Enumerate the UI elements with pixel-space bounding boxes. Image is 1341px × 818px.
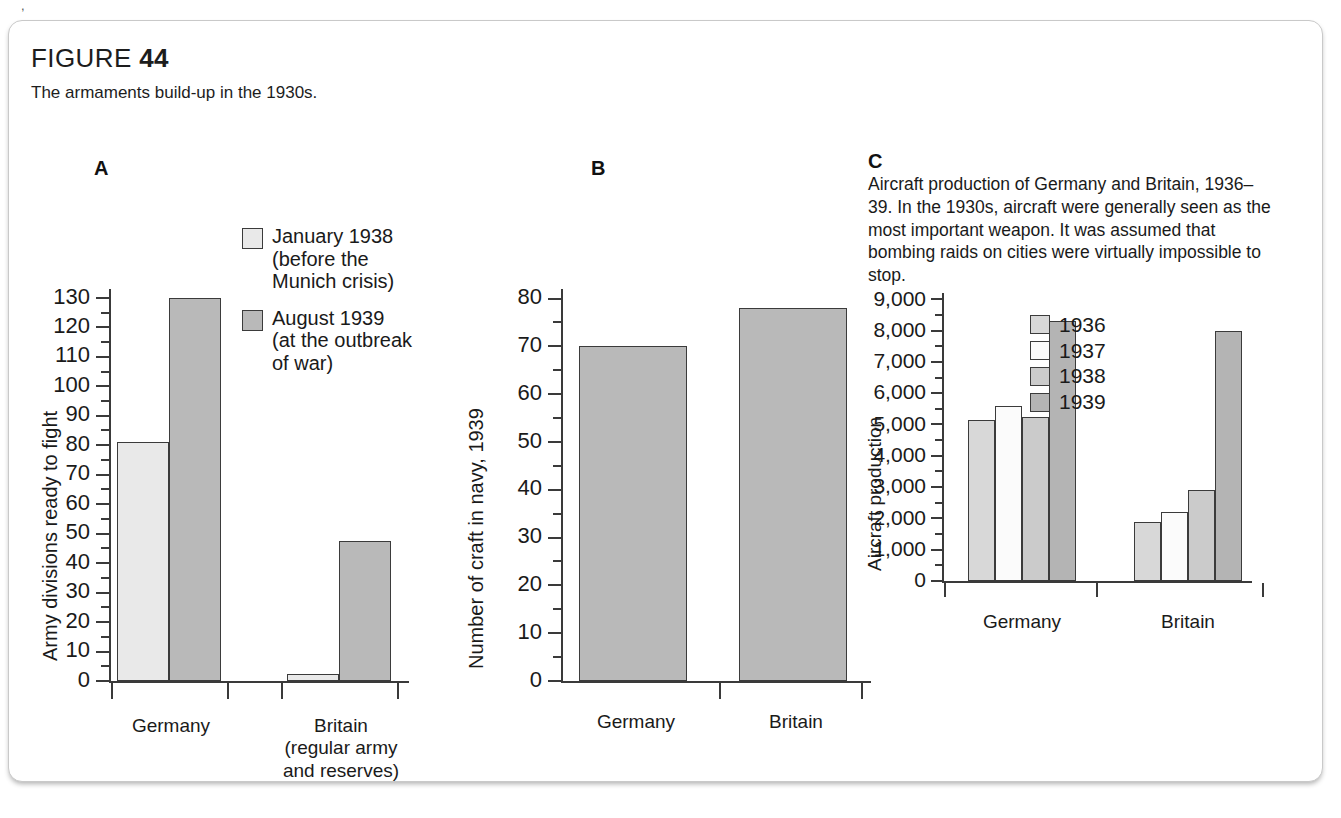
y-tick-major	[931, 392, 942, 394]
legend-item: 1939	[1030, 390, 1106, 414]
chart-c-y-axis-title: Aircraft production	[864, 417, 886, 571]
y-tick-minor	[101, 518, 109, 520]
legend-label: 1939	[1059, 390, 1106, 414]
y-tick-major	[931, 580, 942, 582]
figure-page: , FIGURE 44 The armaments build-up in th…	[0, 0, 1341, 818]
legend-item: January 1938(before theMunich crisis)	[242, 225, 412, 293]
category-label: Britain	[1098, 611, 1278, 633]
y-tick-major	[931, 330, 942, 332]
category-tick	[227, 683, 229, 699]
y-tick-minor	[935, 408, 942, 410]
y-tick-minor	[553, 608, 561, 610]
y-tick-major	[931, 517, 942, 519]
figure-label: FIGURE	[31, 43, 132, 73]
category-tick	[397, 683, 399, 699]
y-tick-label: 0	[0, 669, 90, 691]
y-tick-label: 6,000	[836, 381, 926, 402]
legend-item: August 1939(at the outbreakof war)	[242, 307, 412, 375]
y-tick-minor	[101, 341, 109, 343]
page-title: FIGURE 44	[31, 43, 317, 74]
y-tick-major	[96, 356, 109, 358]
bar-c-1-3	[1215, 331, 1242, 581]
legend-label: 1937	[1059, 339, 1106, 363]
y-tick-label: 130	[0, 286, 90, 308]
bar-c-1-0	[1134, 522, 1161, 581]
bar-c-0-1	[995, 406, 1022, 581]
y-tick-label: 0	[836, 569, 926, 590]
figure-card: FIGURE 44 The armaments build-up in the …	[8, 20, 1323, 782]
y-tick-major	[548, 489, 561, 491]
y-tick-major	[548, 537, 561, 539]
y-tick-major	[96, 533, 109, 535]
figure-header: FIGURE 44 The armaments build-up in the …	[31, 43, 317, 103]
y-tick-minor	[101, 312, 109, 314]
bar-a-1-1	[339, 541, 391, 681]
y-tick-major	[96, 651, 109, 653]
y-tick-minor	[553, 656, 561, 658]
y-tick-major	[96, 326, 109, 328]
y-tick-minor	[101, 459, 109, 461]
bar-a-0-1	[169, 298, 221, 681]
y-tick-label: 0	[452, 669, 542, 691]
y-tick-major	[96, 503, 109, 505]
y-tick-minor	[101, 488, 109, 490]
y-tick-label: 60	[452, 382, 542, 404]
chart-b-y-axis	[561, 289, 563, 681]
y-tick-major	[548, 441, 561, 443]
legend-label: January 1938(before theMunich crisis)	[272, 225, 394, 293]
y-tick-major	[548, 345, 561, 347]
y-tick-minor	[101, 547, 109, 549]
y-tick-major	[931, 361, 942, 363]
y-tick-major	[931, 423, 942, 425]
y-tick-label: 7,000	[836, 350, 926, 371]
y-tick-minor	[935, 502, 942, 504]
chart-a-x-axis	[109, 681, 409, 683]
bar-c-0-0	[968, 420, 995, 581]
bar-a-0-0	[117, 442, 169, 681]
y-tick-minor	[935, 470, 942, 472]
y-tick-major	[96, 680, 109, 682]
y-tick-minor	[935, 533, 942, 535]
y-tick-minor	[101, 577, 109, 579]
y-tick-major	[931, 298, 942, 300]
y-tick-minor	[553, 417, 561, 419]
chart-panel-a: A 0102030405060708090100110120130Army di…	[9, 121, 449, 761]
y-tick-major	[96, 444, 109, 446]
y-tick-minor	[101, 371, 109, 373]
figure-number: 44	[139, 43, 169, 73]
bar-c-1-2	[1188, 490, 1215, 581]
y-tick-major	[931, 486, 942, 488]
y-tick-minor	[935, 314, 942, 316]
page-stray-mark: ,	[21, 0, 31, 12]
y-tick-minor	[935, 439, 942, 441]
y-tick-minor	[101, 665, 109, 667]
chart-b-plot: 01020304050607080Number of craft in navy…	[429, 121, 911, 818]
category-label: Germany	[932, 611, 1112, 633]
bar-a-1-0	[287, 674, 339, 681]
y-tick-minor	[553, 369, 561, 371]
y-tick-major	[548, 584, 561, 586]
y-tick-major	[548, 298, 561, 300]
category-tick	[944, 583, 946, 597]
legend-label: 1938	[1059, 364, 1106, 388]
legend-swatch	[242, 310, 263, 331]
y-tick-label: 100	[0, 374, 90, 396]
category-label: Britain(regular armyand reserves)	[271, 715, 411, 782]
chart-a-legend: January 1938(before theMunich crisis)Aug…	[242, 225, 412, 389]
y-tick-major	[96, 415, 109, 417]
legend-label: 1936	[1059, 313, 1106, 337]
legend-swatch	[1030, 315, 1050, 334]
y-tick-major	[96, 621, 109, 623]
y-tick-major	[931, 455, 942, 457]
y-tick-minor	[101, 400, 109, 402]
category-tick	[1262, 583, 1264, 597]
legend-swatch	[242, 228, 263, 249]
y-tick-minor	[101, 636, 109, 638]
y-tick-minor	[101, 429, 109, 431]
y-tick-major	[96, 592, 109, 594]
bar-c-0-2	[1022, 417, 1049, 581]
y-tick-minor	[101, 606, 109, 608]
y-tick-label: 110	[0, 344, 90, 366]
y-tick-label: 9,000	[836, 288, 926, 309]
category-label: Germany	[101, 715, 241, 737]
